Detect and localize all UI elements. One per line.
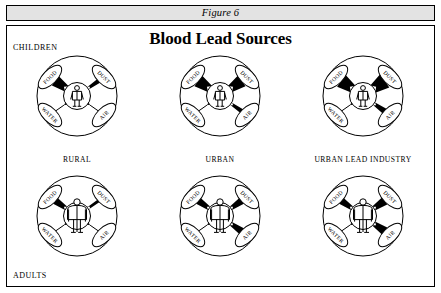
scenario-caption: URBAN [152, 156, 288, 164]
diagram-urban-lead-industry-children: FOODDUSTWATERAIRURBAN LEAD INDUSTRY [295, 46, 431, 164]
scenario-caption: URBAN LEAD INDUSTRY [295, 156, 431, 164]
diagram-urban-children: FOODDUSTWATERAIRURBAN [152, 46, 288, 164]
diagram-rural-adults: FOODDUSTWATERAIRRURAL [9, 166, 145, 284]
figure-header-bar: Figure 6 [6, 5, 435, 21]
figure-title: Blood Lead Sources [7, 30, 434, 47]
diagram-urban-lead-industry-adults: FOODDUSTWATERAIRURBAN LEAD INDUSTRY [295, 166, 431, 284]
figure-caption: Figure 6 [202, 8, 240, 19]
scenario-caption: RURAL [9, 156, 145, 164]
figure-panel: Blood Lead Sources CHILDREN ADULTS FOODD… [6, 25, 435, 287]
diagram-rural-children: FOODDUSTWATERAIRRURAL [9, 46, 145, 164]
figure-root: Figure 6 Blood Lead Sources CHILDREN ADU… [0, 0, 441, 293]
diagram-urban-adults: FOODDUSTWATERAIRURBAN [152, 166, 288, 284]
